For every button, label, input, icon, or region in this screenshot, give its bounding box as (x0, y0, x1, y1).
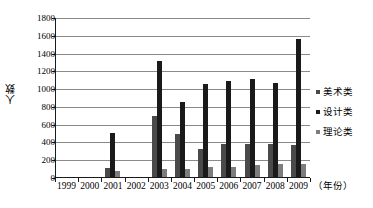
plot-area (55, 18, 310, 178)
bar-group (198, 17, 213, 177)
bar (180, 102, 185, 177)
bar (208, 167, 213, 177)
bar-chart: 人数 1999200020012002200320042005200620072… (0, 0, 373, 208)
x-tick-label: 2001 (103, 180, 122, 192)
y-axis-line (55, 18, 56, 178)
bar-group (105, 17, 120, 177)
x-tick-label: 2003 (150, 180, 169, 192)
bar (157, 61, 162, 177)
bar-group (291, 17, 306, 177)
bar (250, 79, 255, 177)
y-tick-label: 1000 (15, 85, 55, 94)
y-tick-label: 800 (15, 102, 55, 111)
legend-label: 设计类 (323, 107, 353, 117)
x-tick-label: 2009 (289, 180, 308, 192)
legend-label: 理论类 (323, 127, 353, 137)
x-axis-title: （年份） (313, 180, 353, 192)
bar-group (59, 17, 74, 177)
bar (162, 169, 167, 177)
bar (296, 39, 301, 177)
bar-group (221, 17, 236, 177)
x-tick-label: 2002 (127, 180, 146, 192)
bar (203, 84, 208, 177)
legend-item[interactable]: 美术类 (316, 82, 373, 102)
x-tick-label: 2007 (243, 180, 262, 192)
x-axis-line (55, 177, 310, 178)
x-tick-label: 1999 (57, 180, 76, 192)
bar (278, 164, 283, 177)
bar (255, 165, 260, 177)
y-tick-label: 1400 (15, 49, 55, 58)
bar-group (245, 17, 260, 177)
x-tick-label: 2004 (173, 180, 192, 192)
legend-item[interactable]: 设计类 (316, 102, 373, 122)
y-tick-label: 1800 (15, 14, 55, 23)
y-tick-label: 0 (15, 174, 55, 183)
legend: 美术类设计类理论类 (316, 82, 373, 142)
bar-group (82, 17, 97, 177)
legend-label: 美术类 (323, 87, 353, 97)
bar (185, 169, 190, 177)
bar-group (129, 17, 144, 177)
bar-group (152, 17, 167, 177)
legend-swatch-icon (316, 130, 320, 134)
bar-group (268, 17, 283, 177)
y-tick-label: 1600 (15, 31, 55, 40)
bar (301, 164, 306, 177)
bar (231, 167, 236, 177)
legend-item[interactable]: 理论类 (316, 122, 373, 142)
x-tick-label: 2008 (266, 180, 285, 192)
bar-group (175, 17, 190, 177)
x-tick-label: 2006 (219, 180, 238, 192)
y-tick-label: 200 (15, 156, 55, 165)
bar (273, 83, 278, 177)
y-tick-label: 400 (15, 138, 55, 147)
legend-swatch-icon (316, 90, 320, 94)
legend-swatch-icon (316, 110, 320, 114)
x-tick-label: 2000 (80, 180, 99, 192)
y-tick-label: 600 (15, 120, 55, 129)
bar (115, 171, 120, 177)
bar (226, 81, 231, 177)
y-tick-label: 1200 (15, 67, 55, 76)
x-tick-label: 2005 (196, 180, 215, 192)
